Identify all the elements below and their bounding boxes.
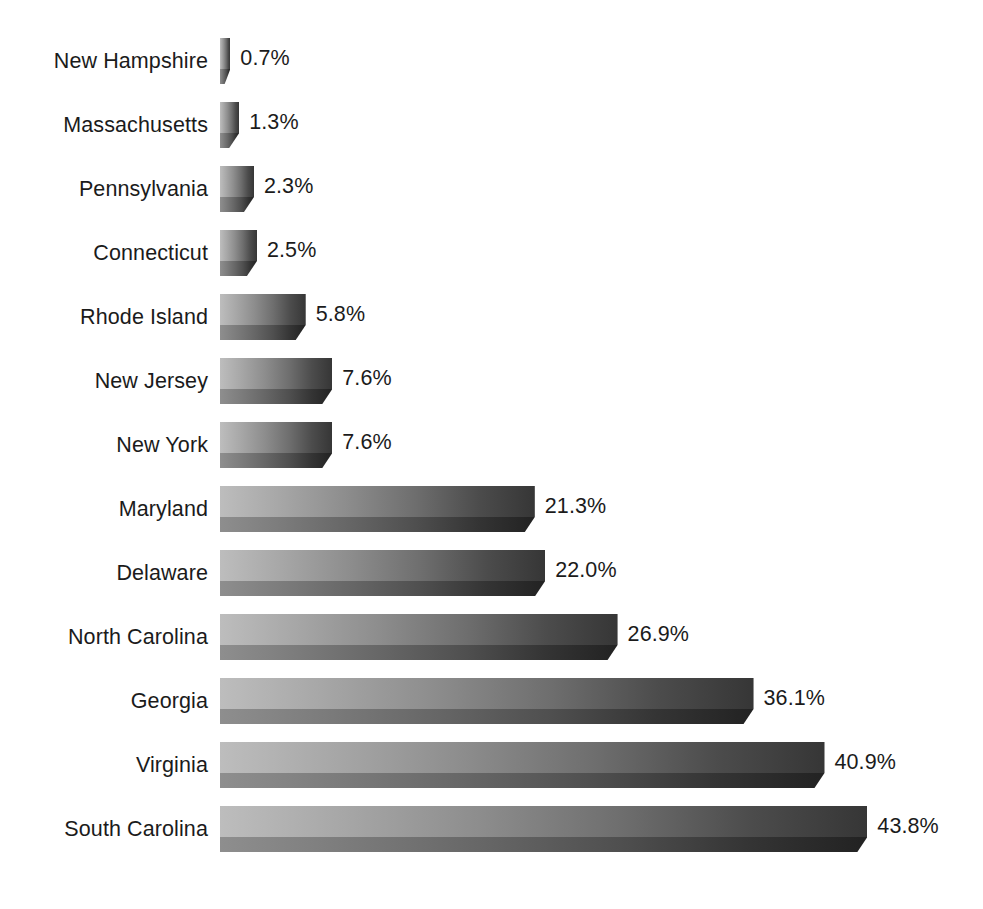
bar[interactable]: [220, 102, 239, 148]
bar-row: New Jersey7.6%: [0, 358, 983, 404]
bar[interactable]: [220, 166, 254, 212]
bar[interactable]: [220, 422, 332, 468]
value-label: 2.5%: [267, 230, 316, 270]
value-label: 7.6%: [342, 422, 391, 462]
bar[interactable]: [220, 742, 825, 788]
value-label: 0.7%: [240, 38, 289, 78]
bar-chart: New Hampshire0.7%Massachusetts1.3%Pennsy…: [0, 0, 983, 909]
category-label: Georgia: [0, 678, 208, 724]
category-label: Massachusetts: [0, 102, 208, 148]
bar-bevel-shadow: [220, 261, 257, 276]
bar-bevel-shadow: [220, 325, 306, 340]
category-label: New York: [0, 422, 208, 468]
bar-row: South Carolina43.8%: [0, 806, 983, 852]
bar-face: [220, 678, 754, 709]
category-label: Maryland: [0, 486, 208, 532]
bar-row: Massachusetts1.3%: [0, 102, 983, 148]
bar-row: Connecticut2.5%: [0, 230, 983, 276]
bar[interactable]: [220, 38, 230, 84]
bar[interactable]: [220, 230, 257, 276]
bar-row: New Hampshire0.7%: [0, 38, 983, 84]
chart-title: [0, 0, 1, 1]
bar[interactable]: [220, 358, 332, 404]
bar-bevel-shadow: [220, 581, 545, 596]
bar-face: [220, 358, 332, 389]
bar[interactable]: [220, 486, 535, 532]
bar-row: Maryland21.3%: [0, 486, 983, 532]
category-label: Rhode Island: [0, 294, 208, 340]
bar-face: [220, 38, 230, 69]
category-label: Virginia: [0, 742, 208, 788]
category-label: Connecticut: [0, 230, 208, 276]
bar-face: [220, 294, 306, 325]
bar-face: [220, 422, 332, 453]
bar-bevel-shadow: [220, 709, 754, 724]
category-label: Delaware: [0, 550, 208, 596]
value-label: 36.1%: [764, 678, 825, 718]
bar-row: Delaware22.0%: [0, 550, 983, 596]
bar-row: Georgia36.1%: [0, 678, 983, 724]
category-label: South Carolina: [0, 806, 208, 852]
bar-bevel-shadow: [220, 453, 332, 468]
category-label: Pennsylvania: [0, 166, 208, 212]
bar-face: [220, 102, 239, 133]
bar-face: [220, 742, 825, 773]
bar-bevel-shadow: [220, 389, 332, 404]
bar-row: New York7.6%: [0, 422, 983, 468]
bar-face: [220, 614, 618, 645]
bar[interactable]: [220, 806, 867, 852]
bar-face: [220, 166, 254, 197]
value-label: 2.3%: [264, 166, 313, 206]
bar-bevel-shadow: [220, 645, 618, 660]
category-label: New Jersey: [0, 358, 208, 404]
bar-bevel-shadow: [220, 837, 867, 852]
bar-bevel-shadow: [220, 517, 535, 532]
value-label: 5.8%: [316, 294, 365, 334]
value-label: 40.9%: [835, 742, 896, 782]
bar[interactable]: [220, 614, 618, 660]
bar[interactable]: [220, 294, 306, 340]
bar-face: [220, 486, 535, 517]
bar-bevel-shadow: [220, 197, 254, 212]
bar-bevel-shadow: [220, 773, 825, 788]
bar-face: [220, 550, 545, 581]
category-label: North Carolina: [0, 614, 208, 660]
bar-bevel-shadow: [220, 133, 239, 148]
value-label: 26.9%: [628, 614, 689, 654]
bar[interactable]: [220, 550, 545, 596]
value-label: 21.3%: [545, 486, 606, 526]
bar-face: [220, 806, 867, 837]
bar-row: Virginia40.9%: [0, 742, 983, 788]
bar[interactable]: [220, 678, 754, 724]
bar-bevel-shadow: [220, 69, 230, 84]
value-label: 22.0%: [555, 550, 616, 590]
value-label: 1.3%: [249, 102, 298, 142]
bar-row: Rhode Island5.8%: [0, 294, 983, 340]
bar-row: Pennsylvania2.3%: [0, 166, 983, 212]
value-label: 7.6%: [342, 358, 391, 398]
category-label: New Hampshire: [0, 38, 208, 84]
value-label: 43.8%: [877, 806, 938, 846]
bar-face: [220, 230, 257, 261]
bar-row: North Carolina26.9%: [0, 614, 983, 660]
